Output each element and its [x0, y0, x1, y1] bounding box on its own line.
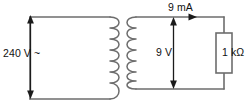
transformer-primary-winding: [110, 17, 119, 99]
transformer-circuit-diagram: 240 V ~ 9 mA 9 V 1 kΩ: [0, 0, 252, 107]
transformer-secondary-winding: [127, 17, 136, 89]
resistance-label: 1 kΩ: [222, 47, 244, 58]
primary-voltage-label: 240 V ~: [3, 48, 40, 59]
secondary-voltage-arrow-head-down: [170, 81, 177, 90]
current-direction-arrow: [189, 14, 198, 21]
secondary-voltage-label: 9 V: [156, 47, 172, 58]
current-label: 9 mA: [168, 2, 193, 13]
secondary-voltage-arrow-head-up: [170, 17, 177, 26]
primary-voltage-arrow-head-down: [27, 91, 34, 100]
